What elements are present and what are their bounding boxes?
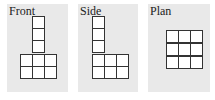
grid-cell [92,40,105,53]
grid-cell [116,66,129,79]
grid-cell [190,30,203,43]
grid-cell [32,40,45,53]
grid-cell [44,66,57,79]
grid-cell [190,56,203,69]
plan-view-label: Plan [150,5,171,17]
grid-cell [190,43,203,56]
